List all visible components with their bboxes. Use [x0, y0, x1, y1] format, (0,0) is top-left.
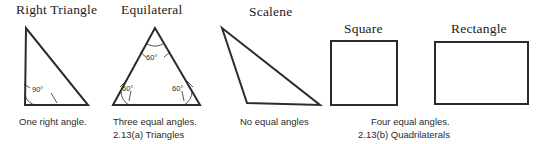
caption-quadrilaterals: Four equal angles.	[371, 116, 450, 127]
equilateral-triangle-shape: 60° 60° 60°	[113, 28, 200, 105]
caption-equilateral: Three equal angles.	[113, 116, 197, 127]
square-shape	[331, 41, 397, 105]
figure-label-triangles: 2.13(a) Triangles	[113, 129, 184, 140]
scalene-triangle-shape	[222, 28, 320, 105]
caption-right-triangle: One right angle.	[19, 116, 87, 127]
angle-label-90: 90°	[32, 85, 43, 94]
angle-label-apex-60: 60°	[146, 53, 157, 62]
angle-label-left-60: 60°	[122, 84, 133, 93]
caption-scalene: No equal angles	[240, 116, 309, 127]
rectangle-shape	[435, 42, 528, 104]
right-triangle-shape: 90°	[24, 28, 88, 105]
figure-label-quadrilaterals: 2.13(b) Quadrilaterals	[358, 129, 450, 140]
geometry-figure-panel: Right Triangle Equilateral Scalene Squar…	[0, 0, 556, 144]
angle-label-right-60: 60°	[172, 84, 183, 93]
